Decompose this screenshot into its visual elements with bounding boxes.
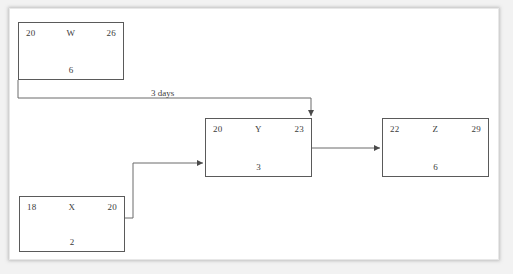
activity-node-w[interactable]: 20 W 26 6 (18, 22, 124, 80)
node-z-duration: 6 (383, 162, 488, 172)
node-w-early-start: 20 (26, 28, 36, 38)
node-z-early-finish: 29 (471, 124, 481, 134)
activity-node-x[interactable]: 18 X 20 2 (19, 196, 125, 252)
node-w-duration: 6 (19, 65, 123, 75)
node-x-header: 18 X 20 (20, 202, 124, 212)
node-y-name: Y (255, 124, 262, 134)
activity-node-z[interactable]: 22 Z 29 6 (382, 118, 489, 177)
screenshot-canvas: 20 W 26 6 18 X 20 2 20 Y 23 3 (0, 0, 513, 274)
edge-label-w-to-y: 3 days (151, 88, 174, 98)
node-x-early-start: 18 (27, 202, 37, 212)
node-y-early-finish: 23 (294, 124, 304, 134)
activity-node-y[interactable]: 20 Y 23 3 (205, 118, 312, 177)
node-w-header: 20 W 26 (19, 28, 123, 38)
node-w-name: W (67, 28, 76, 38)
node-x-name: X (69, 202, 76, 212)
node-x-duration: 2 (20, 237, 124, 247)
node-z-name: Z (433, 124, 439, 134)
node-y-duration: 3 (206, 162, 311, 172)
node-z-early-start: 22 (390, 124, 400, 134)
node-w-early-finish: 26 (106, 28, 116, 38)
connector-w-to-y (18, 80, 311, 116)
node-y-header: 20 Y 23 (206, 124, 311, 134)
network-diagram: 20 W 26 6 18 X 20 2 20 Y 23 3 (0, 0, 513, 274)
node-x-early-finish: 20 (107, 202, 117, 212)
connector-x-to-y (125, 163, 203, 218)
node-z-header: 22 Z 29 (383, 124, 488, 134)
node-y-early-start: 20 (213, 124, 223, 134)
